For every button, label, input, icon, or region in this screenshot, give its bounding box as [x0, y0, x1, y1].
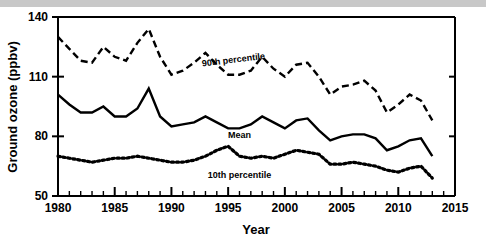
- x-tick-label: 2010: [385, 201, 412, 215]
- ground-ozone-line-chart: 5080110140 19801985199019952000200520102…: [0, 0, 486, 246]
- x-tick-label: 2005: [328, 201, 355, 215]
- x-tick-label: 1990: [158, 201, 185, 215]
- chart-figure: 5080110140 19801985199019952000200520102…: [0, 0, 486, 246]
- x-tick-label: 1995: [215, 201, 242, 215]
- series-annotation: 10th percentile: [208, 170, 272, 180]
- y-tick-label: 140: [28, 10, 48, 24]
- y-tick-label: 80: [35, 129, 49, 143]
- y-axis-title: Ground ozone (ppbv): [5, 41, 20, 172]
- x-tick-label: 2000: [272, 201, 299, 215]
- series-90th-percentile: [58, 29, 432, 120]
- series-inline-labels: 90th percentileMean10th percentile: [201, 51, 271, 180]
- series-annotation: Mean: [228, 130, 251, 140]
- y-axis-tick-labels: 5080110140: [28, 10, 48, 203]
- x-tick-label: 2015: [442, 201, 469, 215]
- x-axis-title: Year: [242, 222, 269, 237]
- y-tick-label: 110: [29, 70, 49, 84]
- x-axis-ticks: [58, 187, 455, 196]
- data-series-group: [58, 29, 432, 178]
- x-axis-tick-labels: 19801985199019952000200520102015: [45, 201, 469, 215]
- series-annotation: 90th percentile: [201, 51, 265, 69]
- x-tick-label: 1985: [101, 201, 128, 215]
- series-mean: [58, 89, 432, 157]
- x-tick-label: 1980: [45, 201, 72, 215]
